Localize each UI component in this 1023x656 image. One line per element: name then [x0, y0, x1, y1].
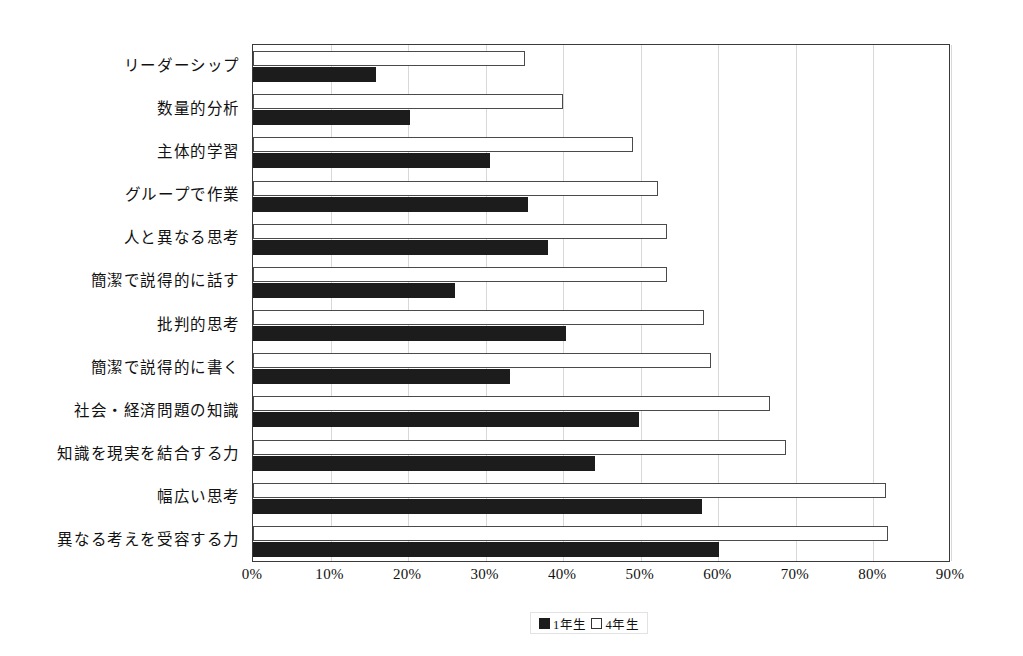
bar-series-1nensei [253, 240, 548, 255]
bar-series-4nensei [253, 396, 770, 411]
category-label: 簡潔で説得的に話す [0, 274, 240, 290]
bar-series-4nensei [253, 526, 888, 541]
bar-series-1nensei [253, 153, 490, 168]
x-tick-label: 10% [315, 566, 343, 583]
category-label: 簡潔で説得的に書く [0, 360, 240, 376]
x-tick-label: 20% [393, 566, 421, 583]
category-label: 異なる考えを受容する力 [0, 533, 240, 549]
bar-series-1nensei [253, 412, 639, 427]
bar-group [253, 88, 949, 131]
bar-series-1nensei [253, 67, 376, 82]
bar-group [253, 304, 949, 347]
bar-series-4nensei [253, 51, 525, 66]
bar-series-1nensei [253, 542, 719, 557]
gridline [951, 45, 952, 561]
bar-series-4nensei [253, 94, 563, 109]
bar-group [253, 390, 949, 433]
category-label: 人と異なる思考 [0, 231, 240, 247]
bar-group [253, 261, 949, 304]
x-tick-label: 40% [548, 566, 576, 583]
bar-series-4nensei [253, 137, 633, 152]
bar-series-4nensei [253, 353, 711, 368]
bar-group [253, 45, 949, 88]
bar-series-1nensei [253, 326, 566, 341]
bar-series-4nensei [253, 440, 786, 455]
legend-label: 4年生 [605, 614, 638, 633]
x-axis: 0%10%20%30%40%50%60%70%80%90% [252, 562, 950, 590]
x-tick-label: 60% [703, 566, 731, 583]
bar-group [253, 477, 949, 520]
bar-series-1nensei [253, 283, 455, 298]
bar-group [253, 520, 949, 563]
bar-group [253, 347, 949, 390]
bar-series-1nensei [253, 499, 702, 514]
category-axis: リーダーシップ数量的分析主体的学習グループで作業人と異なる思考簡潔で説得的に話す… [0, 44, 246, 562]
category-label: 社会・経済問題の知識 [0, 403, 240, 419]
legend-label: 1年生 [553, 614, 586, 633]
category-label: 幅広い思考 [0, 490, 240, 506]
legend-entry: 1年生 [539, 614, 586, 633]
bar-series-1nensei [253, 456, 595, 471]
x-tick-label: 90% [936, 566, 964, 583]
bar-series-4nensei [253, 267, 667, 282]
bar-group [253, 131, 949, 174]
bar-chart: リーダーシップ数量的分析主体的学習グループで作業人と異なる思考簡潔で説得的に話す… [0, 0, 1023, 656]
bar-series-4nensei [253, 483, 886, 498]
legend-swatch-icon [539, 618, 550, 629]
legend-swatch-icon [591, 618, 602, 629]
category-label: グループで作業 [0, 187, 240, 203]
bar-series-4nensei [253, 224, 667, 239]
category-label: 主体的学習 [0, 144, 240, 160]
category-label: 知識を現実を結合する力 [0, 446, 240, 462]
bar-series-4nensei [253, 310, 704, 325]
x-tick-label: 50% [626, 566, 654, 583]
category-label: リーダーシップ [0, 58, 240, 74]
bar-group [253, 434, 949, 477]
x-tick-label: 0% [242, 566, 263, 583]
chart-legend: 1年生4年生 [530, 612, 648, 634]
plot-area [252, 44, 950, 562]
legend-entry: 4年生 [591, 614, 638, 633]
bar-group [253, 175, 949, 218]
bar-group [253, 218, 949, 261]
category-label: 批判的思考 [0, 317, 240, 333]
x-tick-label: 70% [781, 566, 809, 583]
bar-series-1nensei [253, 197, 528, 212]
bar-series-1nensei [253, 110, 410, 125]
x-tick-label: 80% [858, 566, 886, 583]
category-label: 数量的分析 [0, 101, 240, 117]
x-tick-label: 30% [470, 566, 498, 583]
bar-series-1nensei [253, 369, 510, 384]
bar-series-4nensei [253, 181, 658, 196]
